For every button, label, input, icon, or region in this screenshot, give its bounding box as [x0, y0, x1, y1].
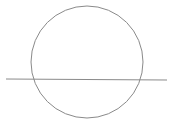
secant-line	[6, 79, 167, 80]
circle-shape	[31, 6, 143, 118]
diagram-canvas	[0, 0, 173, 136]
